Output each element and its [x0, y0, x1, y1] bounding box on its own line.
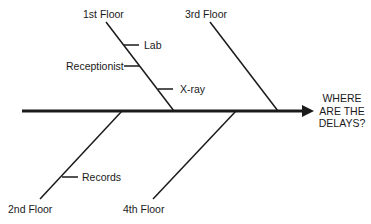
effect-line-3: DELAYS?: [312, 117, 371, 130]
cause-label-lab: Lab: [144, 39, 162, 51]
category-label-3rd-floor: 3rd Floor: [185, 8, 227, 20]
fishbone-diagram: 1st Floor 3rd Floor 2nd Floor 4th Floor …: [0, 0, 371, 224]
category-label-4th-floor: 4th Floor: [123, 203, 164, 215]
effect-line-1: WHERE: [312, 92, 371, 105]
bone-4th-floor: [153, 111, 236, 199]
cause-label-records: Records: [82, 171, 121, 183]
cause-label-receptionist: Receptionist: [66, 60, 124, 72]
category-label-2nd-floor: 2nd Floor: [8, 203, 52, 215]
cause-label-xray: X-ray: [180, 83, 205, 95]
bone-3rd-floor: [210, 22, 278, 111]
category-label-1st-floor: 1st Floor: [83, 8, 124, 20]
effect-line-2: ARE THE: [312, 105, 371, 118]
bone-2nd-floor: [40, 111, 122, 199]
effect-label: WHERE ARE THE DELAYS?: [312, 92, 371, 130]
